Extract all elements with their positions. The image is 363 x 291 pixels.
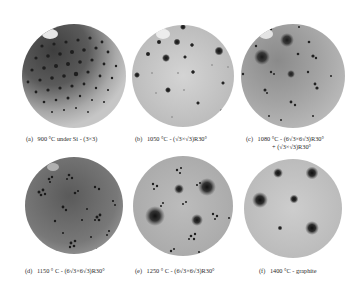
- caption-text: 900 °C under Si - (3×3): [38, 135, 98, 142]
- caption-text-line2: + (√3×√3)R30°: [272, 143, 311, 150]
- caption-text: 1150 ° C - (6√3×6√3)R30°: [37, 267, 105, 274]
- caption-f: (f) 1400 °C - graphite: [259, 267, 317, 274]
- caption-text: 1050 °C - (√3×√3)R30°: [147, 135, 207, 142]
- caption-label: (f): [259, 267, 265, 274]
- leed-pattern-e: [133, 156, 233, 256]
- caption-a: (a) 900 °C under Si - (3×3): [26, 135, 97, 142]
- leed-pattern-c: [241, 24, 345, 128]
- leed-pattern-b: [132, 25, 234, 127]
- caption-c: (c) 1080 °C - (6√3×6√3)R30°: [246, 135, 324, 142]
- caption-label: (d): [25, 267, 32, 274]
- caption-c-line2: + (√3×√3)R30°: [272, 143, 311, 150]
- caption-text: 1250 ° C - (6√3×6√3)R30°: [147, 267, 215, 274]
- caption-b: (b) 1050 °C - (√3×√3)R30°: [135, 135, 207, 142]
- caption-label: (b): [135, 135, 142, 142]
- caption-text: 1080 °C - (6√3×6√3)R30°: [258, 135, 324, 142]
- caption-d: (d) 1150 ° C - (6√3×6√3)R30°: [25, 267, 105, 274]
- caption-text: 1400 °C - graphite: [270, 267, 317, 274]
- caption-label: (c): [246, 135, 253, 142]
- caption-label: (e): [135, 267, 142, 274]
- leed-pattern-a: [22, 24, 126, 128]
- caption-label: (a): [26, 135, 33, 142]
- caption-e: (e) 1250 ° C - (6√3×6√3)R30°: [135, 267, 215, 274]
- leed-pattern-f: [244, 159, 342, 258]
- leed-pattern-d: [25, 157, 123, 254]
